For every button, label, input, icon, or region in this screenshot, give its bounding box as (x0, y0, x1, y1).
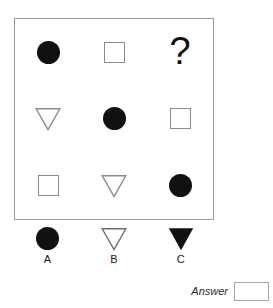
option-c[interactable]: C (147, 225, 214, 273)
outline-triangle-down-icon (101, 174, 127, 198)
matrix-cell-r2c3 (147, 86, 213, 153)
matrix-cell-r1c3-missing: ? (147, 19, 213, 86)
matrix-cell-r2c1 (15, 86, 81, 153)
filled-circle-icon (169, 174, 192, 197)
matrix-cell-r3c3 (147, 152, 213, 219)
puzzle-page: ? (0, 0, 273, 308)
matrix-cell-r3c1 (15, 152, 81, 219)
answer-input[interactable] (234, 282, 269, 301)
matrix-cell-r2c2 (81, 86, 147, 153)
option-a-label: A (44, 254, 51, 265)
outline-triangle-down-icon (35, 107, 61, 131)
answer-label: Answer (191, 286, 228, 297)
option-a-shape (36, 225, 59, 252)
answer-row: Answer (191, 282, 269, 301)
option-a[interactable]: A (14, 225, 81, 273)
matrix-cell-r3c2 (81, 152, 147, 219)
outline-triangle-down-icon (101, 227, 127, 251)
outline-square-icon (38, 175, 59, 196)
matrix-cell-r1c2 (81, 19, 147, 86)
filled-circle-icon (37, 41, 60, 64)
filled-triangle-down-icon (168, 227, 194, 251)
option-c-shape (168, 225, 194, 252)
outline-square-icon (104, 42, 125, 63)
filled-circle-icon (103, 107, 126, 130)
matrix-cell-r1c1 (15, 19, 81, 86)
matrix-grid: ? (15, 19, 213, 219)
matrix-frame: ? (14, 18, 214, 220)
option-b-label: B (110, 254, 117, 265)
outline-square-icon (170, 108, 191, 129)
question-mark-icon: ? (169, 32, 190, 70)
option-b[interactable]: B (81, 225, 148, 273)
option-b-shape (101, 225, 127, 252)
filled-circle-icon (36, 227, 59, 250)
option-c-label: C (177, 254, 185, 265)
answer-options: A B C (14, 225, 214, 273)
